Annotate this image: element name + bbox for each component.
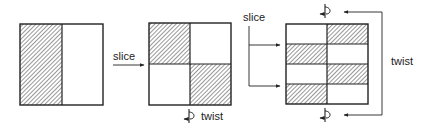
twist-icon-bottom: [320, 108, 330, 122]
hatched-cell: [327, 24, 368, 44]
twist-label: twist: [391, 55, 413, 67]
hatched-cell: [190, 64, 231, 105]
stage-after-slice: [149, 23, 231, 105]
slice-label: slice: [113, 50, 135, 62]
slice-twist-diagram: slice twist slice: [0, 0, 441, 134]
slice-label: slice: [243, 11, 265, 23]
hatched-cell: [286, 44, 327, 64]
twist-label: twist: [201, 110, 223, 122]
slice-step-2: slice: [243, 11, 280, 86]
hatched-cell: [286, 84, 327, 104]
twist-icon: [184, 109, 194, 123]
slice-step: slice: [113, 50, 144, 65]
hatched-cell: [327, 64, 368, 84]
twist-icon-top: [320, 4, 330, 18]
hatched-cell: [149, 23, 190, 64]
stage-original: [20, 24, 103, 105]
hatched-cell: [20, 24, 62, 105]
stage-after-slice-twist: [286, 24, 368, 104]
